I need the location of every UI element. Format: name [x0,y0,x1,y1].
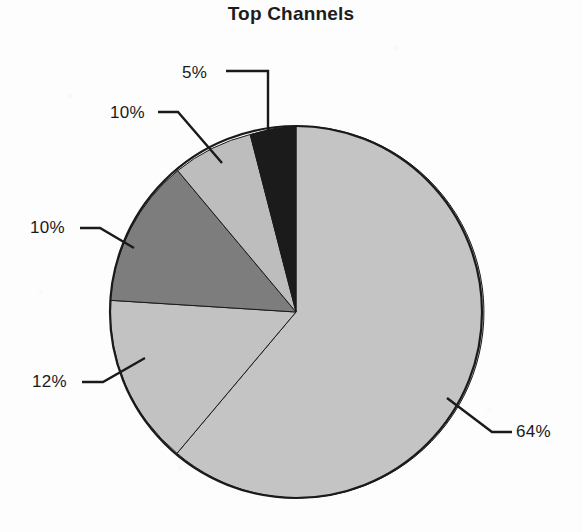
pie-label-10-left: 10% [30,218,65,238]
pie-label-10-upper: 10% [110,103,145,123]
leader-line-5 [226,71,268,133]
pie-label-5: 5% [182,63,207,83]
chart-page: Top Channels 5% 10% 10% 12% 64% [0,0,582,532]
pie-label-12: 12% [32,372,67,392]
pie-label-64: 64% [516,422,551,442]
pie-chart-graphic [0,0,582,532]
